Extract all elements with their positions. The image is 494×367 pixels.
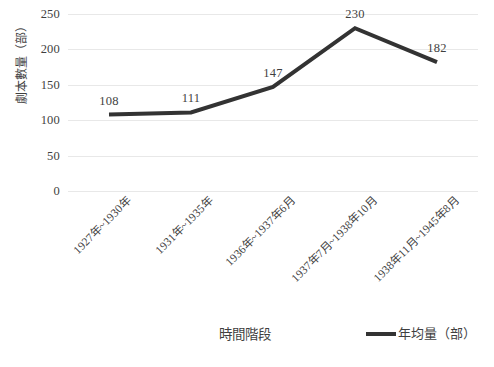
series-layer [68,14,478,191]
y-axis-tick-label: 150 [20,79,60,92]
data-label: 230 [345,8,364,21]
plot-area: 108111147230182 [68,14,478,191]
legend-label: 年均量（部） [398,326,476,343]
y-axis-tick-labels: 050100150200250 [16,14,60,191]
y-axis-tick-label: 200 [20,43,60,56]
data-label: 147 [263,66,282,79]
data-label: 111 [182,92,200,105]
y-axis-tick-label: 0 [20,185,60,198]
x-axis-title: 時間階段 [186,326,304,344]
data-label: 108 [99,94,118,107]
x-axis-tick-label: 1938年11月~1945年8月 [372,195,461,284]
x-axis-tick-labels: 1927年~1930年1931年~1935年1936年~1937年6月1937年… [68,191,478,311]
data-label: 182 [427,42,446,55]
y-axis-tick-label: 100 [20,114,60,127]
chart-legend: 年均量（部） [366,326,476,343]
y-axis-tick-label: 250 [20,8,60,21]
y-axis-tick-label: 50 [20,150,60,163]
x-axis-tick-label: 1927年~1930年 [72,195,133,256]
x-axis-tick-label: 1936年~1937年6月 [224,195,297,268]
x-axis-tick-label: 1937年7月~1938年10月 [290,195,380,285]
legend-line-swatch [366,332,396,336]
line-chart: 劇本數量（部） 050100150200250 108111147230182 … [0,0,494,367]
chart-footer: 時間階段 年均量（部） [0,326,494,354]
x-axis-tick-label: 1931年~1935年 [154,195,215,256]
